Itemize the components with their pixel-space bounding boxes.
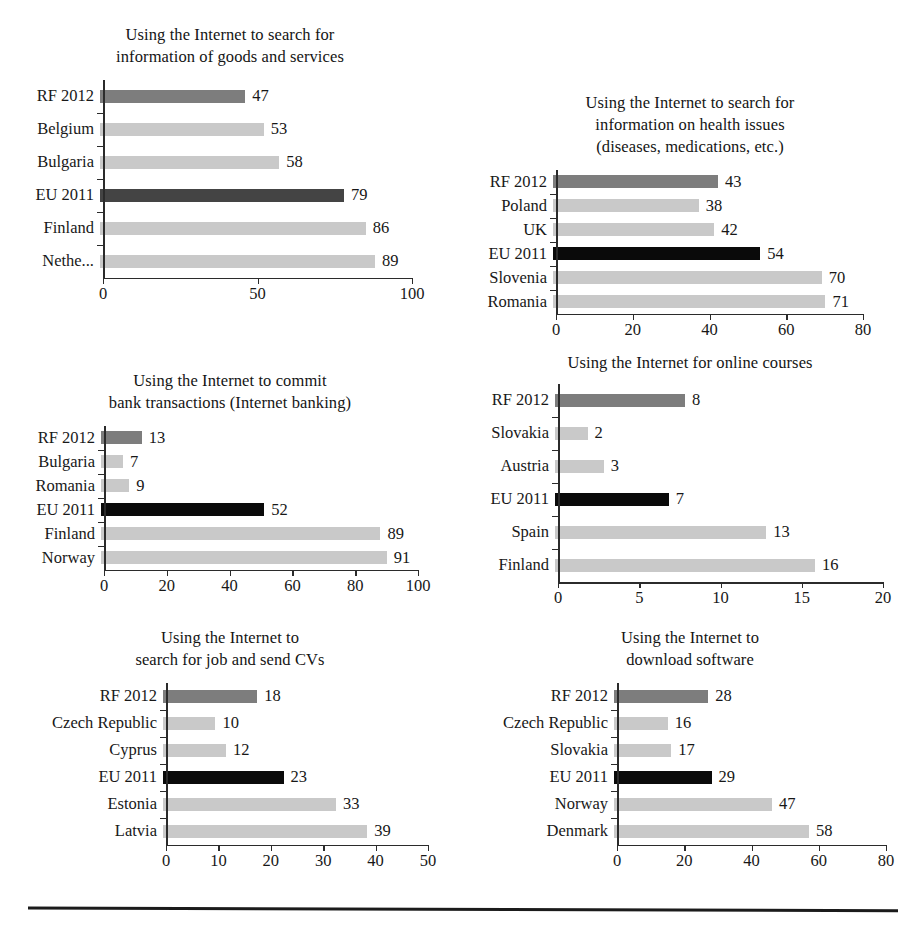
bar-row[interactable]: RF 20128 <box>460 384 920 417</box>
bar-row[interactable]: Czech Republic16 <box>460 710 920 737</box>
category-label: Cyprus <box>0 742 163 759</box>
bar[interactable] <box>555 394 685 407</box>
bar-row[interactable]: Romania71 <box>460 290 920 314</box>
bar[interactable] <box>614 798 772 811</box>
y-axis-tick <box>160 818 166 819</box>
bar-track: 10 <box>163 710 460 737</box>
bar-value-label: 43 <box>725 174 742 191</box>
bar[interactable] <box>100 123 264 136</box>
bar[interactable] <box>100 90 245 103</box>
bar-row[interactable]: Finland86 <box>0 212 460 245</box>
bar[interactable] <box>163 825 367 838</box>
bar-row[interactable]: RF 201218 <box>0 683 460 710</box>
bar-row[interactable]: Nethe...89 <box>0 245 460 278</box>
bar[interactable] <box>100 222 366 235</box>
category-label: EU 2011 <box>460 246 553 263</box>
bar-track: 16 <box>614 710 920 737</box>
bar[interactable] <box>614 771 712 784</box>
bar[interactable] <box>553 295 825 308</box>
category-label: Poland <box>460 198 553 215</box>
bar[interactable] <box>553 247 760 260</box>
bar-row[interactable]: Latvia39 <box>0 818 460 845</box>
category-label: Slovakia <box>460 425 555 442</box>
bar-row[interactable]: Belgium53 <box>0 113 460 146</box>
bar-track: 2 <box>555 417 920 450</box>
bar[interactable] <box>163 717 215 730</box>
bar-row[interactable]: Romania9 <box>0 474 460 498</box>
bar-row[interactable]: RF 201213 <box>0 426 460 450</box>
bar[interactable] <box>555 493 669 506</box>
bar[interactable] <box>163 744 226 757</box>
bar[interactable] <box>553 199 699 212</box>
bar-row[interactable]: Austria3 <box>460 450 920 483</box>
bar-value-label: 54 <box>767 246 784 263</box>
x-axis-line <box>166 845 428 847</box>
bar-row[interactable]: Bulgaria58 <box>0 146 460 179</box>
bar-row[interactable]: Estonia33 <box>0 791 460 818</box>
bar-row[interactable]: EU 201152 <box>0 498 460 522</box>
bar-row[interactable]: RF 201247 <box>0 80 460 113</box>
bar-row[interactable]: Slovakia2 <box>460 417 920 450</box>
bar-row[interactable]: EU 201123 <box>0 764 460 791</box>
bar[interactable] <box>101 527 380 540</box>
x-axis-tick-label: 5 <box>635 590 643 607</box>
bar-row[interactable]: EU 20117 <box>460 483 920 516</box>
bar-row[interactable]: Denmark58 <box>460 818 920 845</box>
bar[interactable] <box>555 460 604 473</box>
bar-row[interactable]: Spain13 <box>460 516 920 549</box>
x-axis-tick-label: 20 <box>159 578 176 595</box>
bar-row[interactable]: Finland16 <box>460 549 920 582</box>
bar[interactable] <box>100 255 375 268</box>
bar[interactable] <box>555 526 766 539</box>
plot-area: RF 201213Bulgaria7Romania9EU 201152Finla… <box>0 426 460 600</box>
bar-row[interactable]: EU 201129 <box>460 764 920 791</box>
bar-track: 42 <box>553 218 920 242</box>
figure-page: Using the Internet to search for informa… <box>0 0 920 937</box>
bar-row[interactable]: RF 201243 <box>460 170 920 194</box>
bar[interactable] <box>100 189 344 202</box>
category-label: Czech Republic <box>460 715 614 732</box>
bar[interactable] <box>553 271 822 284</box>
bar-track: 54 <box>553 242 920 266</box>
bar[interactable] <box>555 559 815 572</box>
bar[interactable] <box>101 551 387 564</box>
bar-row[interactable]: Slovenia70 <box>460 266 920 290</box>
bar-row[interactable]: Slovakia17 <box>460 737 920 764</box>
bar-row[interactable]: Bulgaria7 <box>0 450 460 474</box>
bar[interactable] <box>100 156 279 169</box>
bar-row[interactable]: Norway47 <box>460 791 920 818</box>
bar[interactable] <box>614 825 809 838</box>
bar-value-label: 79 <box>351 187 368 204</box>
bar[interactable] <box>101 503 264 516</box>
x-axis-tick-label: 60 <box>778 322 795 339</box>
bar[interactable] <box>101 431 142 444</box>
plot-area: RF 201228Czech Republic16Slovakia17EU 20… <box>460 683 920 875</box>
bar[interactable] <box>553 223 714 236</box>
bar[interactable] <box>614 744 671 757</box>
bar[interactable] <box>614 717 668 730</box>
y-axis-tick <box>552 516 558 517</box>
bar-row[interactable]: Finland89 <box>0 522 460 546</box>
category-label: Czech Republic <box>0 715 163 732</box>
bar-row[interactable]: Czech Republic10 <box>0 710 460 737</box>
bar-row[interactable]: RF 201228 <box>460 683 920 710</box>
bar[interactable] <box>555 427 588 440</box>
bar-row[interactable]: Norway91 <box>0 546 460 570</box>
bar-row[interactable]: UK42 <box>460 218 920 242</box>
chart-panel-download-software: Using the Internet to download software … <box>460 627 920 875</box>
bar-value-label: 16 <box>822 557 839 574</box>
bar[interactable] <box>614 690 708 703</box>
bar-row[interactable]: EU 201154 <box>460 242 920 266</box>
bar[interactable] <box>163 798 336 811</box>
bar-row[interactable]: EU 201179 <box>0 179 460 212</box>
category-label: Latvia <box>0 823 163 840</box>
bar-track: 39 <box>163 818 460 845</box>
bar-value-label: 86 <box>373 220 390 237</box>
bar[interactable] <box>163 771 284 784</box>
y-axis-line <box>166 683 168 845</box>
bar[interactable] <box>553 175 718 188</box>
bar-value-label: 38 <box>706 198 723 215</box>
bar-row[interactable]: Poland38 <box>460 194 920 218</box>
bar-row[interactable]: Cyprus12 <box>0 737 460 764</box>
bar[interactable] <box>163 690 257 703</box>
